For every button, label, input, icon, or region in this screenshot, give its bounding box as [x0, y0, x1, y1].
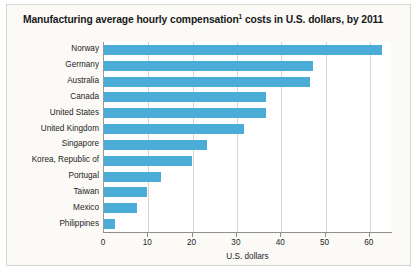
x-tick-label-10: 10	[143, 238, 152, 247]
x-tick-label-20: 20	[187, 238, 196, 247]
bar-taiwan	[104, 187, 147, 197]
y-axis-label: Norway	[17, 44, 99, 53]
bar-australia	[104, 77, 310, 87]
y-axis-category-labels: NorwayGermanyAustraliaCanadaUnited State…	[17, 42, 99, 232]
bar-row	[104, 108, 392, 118]
bar-row	[104, 172, 392, 182]
x-axis-title: U.S. dollars	[103, 252, 392, 261]
bar-mexico	[104, 203, 137, 213]
bar-singapore	[104, 140, 207, 150]
chart-title: Manufacturing average hourly compensatio…	[23, 14, 403, 25]
bar-portugal	[104, 172, 161, 182]
y-axis-label: Canada	[17, 92, 99, 101]
plot-area	[103, 42, 391, 232]
bar-korea-republic-of	[104, 156, 192, 166]
bar-canada	[104, 92, 266, 102]
x-tick-mark-30	[236, 233, 237, 237]
bar-row	[104, 61, 392, 71]
x-tick-mark-60	[369, 233, 370, 237]
y-axis-label: Korea, Republic of	[17, 155, 99, 164]
bar-row	[104, 203, 392, 213]
x-tick-label-0: 0	[101, 238, 106, 247]
bar-row	[104, 45, 392, 55]
chart-figure-frame: Manufacturing average hourly compensatio…	[6, 4, 411, 266]
x-tick-mark-20	[192, 233, 193, 237]
bars-layer	[104, 42, 391, 232]
x-tick-label-50: 50	[320, 238, 329, 247]
y-axis-label: Taiwan	[17, 187, 99, 196]
bar-row	[104, 140, 392, 150]
y-axis-label: Philippines	[17, 219, 99, 228]
y-axis-label: United Kingdom	[17, 124, 99, 133]
y-axis-label: Australia	[17, 76, 99, 85]
bar-philippines	[104, 219, 115, 229]
x-axis-ticks: 0102030405060	[103, 233, 392, 247]
bar-united-kingdom	[104, 124, 244, 134]
bar-united-states	[104, 108, 266, 118]
chart-title-suffix: costs in U.S. dollars, by 2011	[242, 14, 383, 25]
y-axis-label: Mexico	[17, 203, 99, 212]
bar-row	[104, 156, 392, 166]
bar-row	[104, 124, 392, 134]
bar-row	[104, 92, 392, 102]
y-axis-label: Germany	[17, 60, 99, 69]
bar-row	[104, 219, 392, 229]
x-tick-label-40: 40	[276, 238, 285, 247]
x-tick-label-30: 30	[231, 238, 240, 247]
chart-title-main: Manufacturing average hourly compensatio…	[23, 14, 239, 25]
bar-norway	[104, 45, 382, 55]
x-tick-mark-50	[325, 233, 326, 237]
bar-germany	[104, 61, 313, 71]
x-tick-mark-10	[147, 233, 148, 237]
y-axis-label: Portugal	[17, 171, 99, 180]
bar-row	[104, 77, 392, 87]
x-tick-mark-40	[280, 233, 281, 237]
y-axis-label: United States	[17, 108, 99, 117]
x-tick-label-60: 60	[364, 238, 373, 247]
y-axis-label: Singapore	[17, 139, 99, 148]
bar-row	[104, 187, 392, 197]
